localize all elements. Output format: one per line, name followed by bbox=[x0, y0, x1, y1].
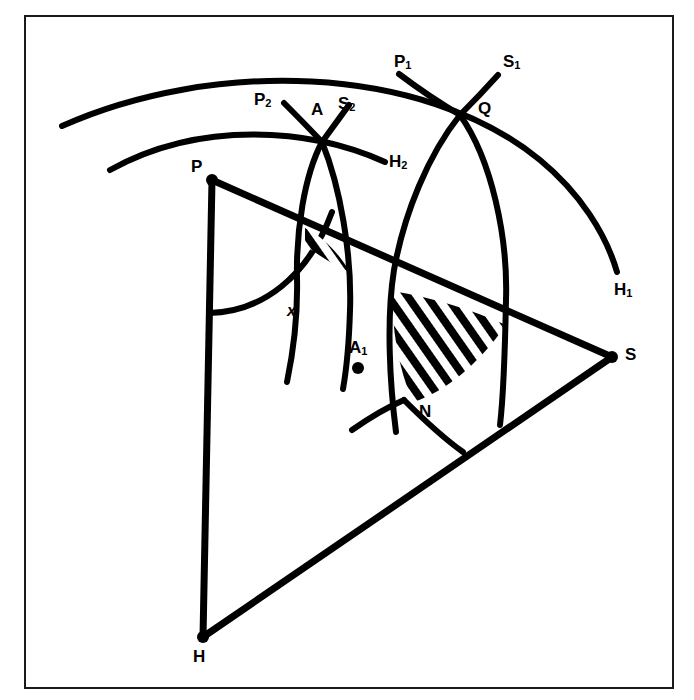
label-P2: P2 bbox=[254, 91, 271, 109]
label-H: H bbox=[193, 648, 205, 665]
point-H-dot bbox=[197, 631, 209, 643]
inner-arc-H2 bbox=[110, 135, 385, 171]
point-S-dot bbox=[606, 351, 618, 363]
label-N: N bbox=[419, 403, 431, 420]
label-x: x bbox=[287, 303, 296, 319]
label-Q: Q bbox=[478, 100, 491, 117]
label-H1: H1 bbox=[614, 281, 632, 299]
label-A1: A1 bbox=[349, 339, 367, 357]
triangle-edge-PH bbox=[203, 180, 212, 637]
label-P1: P1 bbox=[394, 53, 411, 71]
point-P-dot bbox=[206, 174, 218, 186]
label-P: P bbox=[191, 158, 202, 175]
label-S: S bbox=[625, 346, 636, 363]
point-A1-dot bbox=[352, 362, 364, 374]
triangle-edge-HS bbox=[203, 357, 612, 637]
figure-canvas: P H S Q A A1 N P1 S1 P2 S2 H1 H2 x bbox=[0, 0, 694, 700]
label-S2: S2 bbox=[338, 95, 355, 113]
label-H2: H2 bbox=[389, 153, 407, 171]
arc-N-to-HS bbox=[404, 400, 463, 452]
label-A: A bbox=[311, 101, 323, 118]
label-S1: S1 bbox=[503, 53, 520, 71]
